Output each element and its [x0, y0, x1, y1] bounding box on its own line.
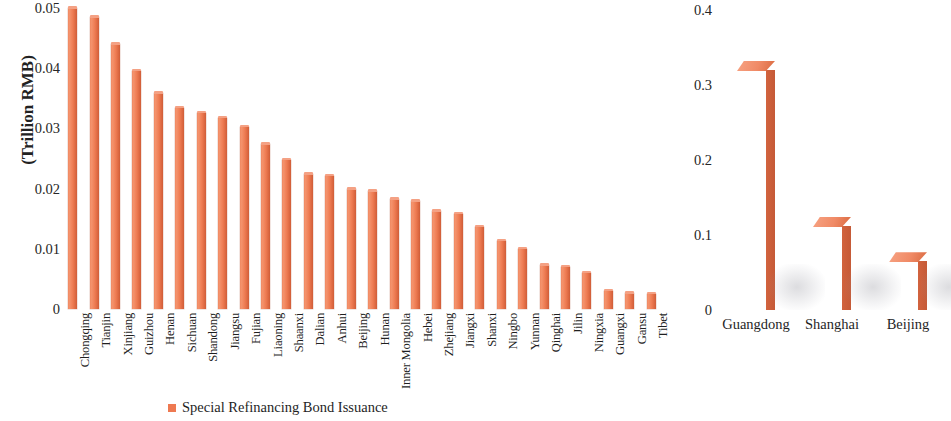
bar: [582, 273, 591, 309]
x-tick-label-left: Gansu: [635, 313, 650, 344]
x-tick-label-right: Shanghai: [794, 316, 870, 333]
bar-slot: [426, 8, 447, 309]
bar: [304, 174, 313, 309]
bar: [218, 118, 227, 309]
bar-slot: [448, 8, 469, 309]
x-tick-label-left: Dalian: [313, 313, 328, 345]
x-tick-label-left: Ningxia: [592, 313, 607, 352]
bar: [282, 160, 291, 309]
bar-slot: [512, 8, 533, 309]
bar-slot: [255, 8, 276, 309]
x-tick-label-left: Liaoning: [271, 313, 286, 357]
bar: [68, 8, 77, 309]
x-tick-label-left: Sichuan: [185, 313, 200, 352]
bar: [154, 93, 163, 309]
x-tick-label-left: Qinghai: [549, 313, 564, 352]
bar: [325, 176, 334, 309]
bar-slot: [555, 8, 576, 309]
plot-area-left: [62, 8, 662, 309]
bar-slot: [341, 8, 362, 309]
y-tick-label-left: 0: [14, 302, 60, 317]
bar-side-face: [842, 226, 851, 310]
bar-slot: [319, 8, 340, 309]
bar: [475, 227, 484, 309]
x-tick-label-left: Anhui: [335, 313, 350, 344]
bar-slot: [598, 8, 619, 309]
x-tick-label-left: Hunan: [378, 313, 393, 346]
bar-slot: [212, 8, 233, 309]
bar-slot: [233, 8, 254, 309]
bar-slot: [62, 8, 83, 309]
y-tick-label-left: 0.04: [14, 61, 60, 76]
bar-slot: [405, 8, 426, 309]
y-tick-label-left: 0.02: [14, 182, 60, 197]
bar-side-face: [766, 70, 775, 310]
bar-slot: [619, 8, 640, 309]
x-tick-label-left: Xinjiang: [121, 313, 136, 355]
bar-slot: [126, 8, 147, 309]
y-tick-label-left: 0.03: [14, 121, 60, 136]
x-tick-label-left: Fujian: [249, 313, 264, 344]
x-tick-label-left: Hebei: [421, 313, 436, 342]
x-tick-label-left: Jiangxi: [463, 313, 478, 348]
y-tick-label-right: 0: [674, 303, 712, 318]
x-tick-label-left: Jiangsu: [228, 313, 243, 349]
bar-front-face: [737, 70, 766, 310]
bar-slot: [169, 8, 190, 309]
legend-label-left: Special Refinancing Bond Issuance: [182, 399, 388, 416]
x-tick-label-left: Henan: [163, 313, 178, 345]
bar-slot: [83, 8, 104, 309]
bar: [175, 108, 184, 309]
y-axis-left: 00.010.020.030.040.05: [12, 0, 60, 421]
x-axis-labels-left: ChongqingTianjinXinjiangGuizhouHenanSich…: [62, 313, 662, 409]
x-tick-label-left: Beijing: [356, 313, 371, 349]
x-tick-label-left: Ningbo: [506, 313, 521, 350]
bar-slot: [383, 8, 404, 309]
bar-slot: [469, 8, 490, 309]
bar-slot: [533, 8, 554, 309]
bar-slot: [362, 8, 383, 309]
bar: [411, 201, 420, 309]
y-tick-label-right: 0.1: [674, 228, 712, 243]
bar: [368, 191, 377, 309]
bar: [737, 70, 775, 310]
y-tick-label-left: 0.01: [14, 242, 60, 257]
bar: [561, 267, 570, 309]
bar: [647, 294, 656, 309]
x-tick-label-left: Inner Mongolia: [399, 313, 414, 389]
legend-left: Special Refinancing Bond Issuance: [168, 399, 388, 416]
bar-slot: [813, 10, 851, 310]
x-tick-label-left: Shaanxi: [292, 313, 307, 352]
x-tick-label-right: Guangdong: [718, 316, 794, 333]
y-tick-label-right: 0.2: [674, 153, 712, 168]
bar-slot: [276, 8, 297, 309]
x-tick-label-left: Guangxi: [613, 313, 628, 355]
bar-slot: [889, 10, 927, 310]
bar-slot: [148, 8, 169, 309]
x-tick-label-left: Chongqing: [78, 313, 93, 367]
x-tick-label-left: Tibet: [656, 313, 671, 338]
bar-slot: [737, 10, 775, 310]
bar-front-face: [889, 261, 918, 310]
y-tick-label-left: 0.05: [14, 1, 60, 16]
bar: [197, 113, 206, 309]
bar-side-face: [918, 261, 927, 310]
x-tick-label-left: Zhejiang: [442, 313, 457, 356]
bar-slot: [298, 8, 319, 309]
bar-slot: [576, 8, 597, 309]
bar-slot: [105, 8, 126, 309]
bar: [390, 199, 399, 309]
x-tick-label-left: Tianjin: [99, 313, 114, 348]
bar: [261, 144, 270, 309]
bar: [625, 293, 634, 309]
bar: [240, 127, 249, 309]
bar-slot: [491, 8, 512, 309]
left-chart-panel: (Trillion RMB) 00.010.020.030.040.05 Cho…: [0, 0, 672, 421]
y-tick-label-right: 0.3: [674, 78, 712, 93]
bar: [540, 265, 549, 309]
bar: [604, 291, 613, 309]
plot-area-right: [718, 10, 946, 310]
x-tick-label-right: Beijing: [870, 316, 946, 333]
y-axis-right: 00.10.20.30.4: [672, 0, 712, 421]
x-tick-label-left: Jilin: [571, 313, 586, 334]
